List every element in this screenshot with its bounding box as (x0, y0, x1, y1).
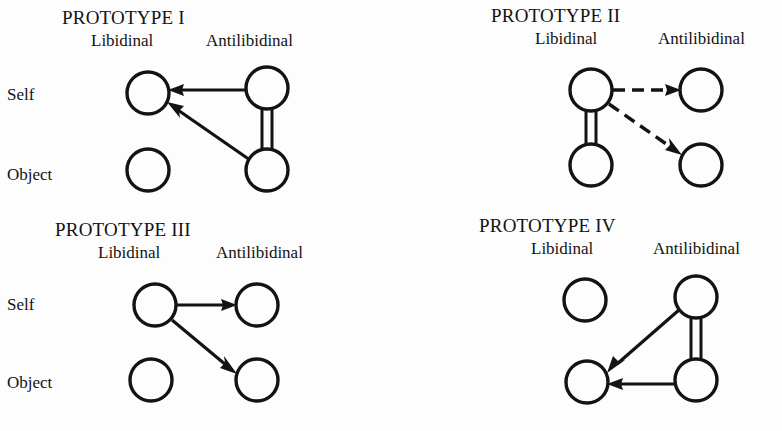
node-libidinal-object (570, 144, 612, 186)
prototype-4-wiring (391, 212, 782, 427)
node-antilibidinal-object (675, 359, 717, 401)
node-libidinal-self (134, 284, 176, 326)
arrow-antilib-object-to-lib-object-diagonal (167, 102, 250, 160)
node-antilibidinal-self (675, 276, 717, 318)
node-libidinal-self (564, 279, 606, 321)
node-antilibidinal-self (680, 69, 722, 111)
node-libidinal-self (127, 72, 169, 114)
panel-prototype-3: PROTOTYPE III Libidinal Antilibidinal Se… (0, 212, 391, 427)
node-antilibidinal-self (246, 67, 288, 109)
panel-prototype-4: PROTOTYPE IV Libidinal Antilibidinal (391, 212, 782, 427)
node-libidinal-object (566, 361, 608, 403)
node-libidinal-object (127, 149, 169, 191)
prototype-1-wiring (0, 0, 391, 215)
panel-prototype-1: PROTOTYPE I Libidinal Antilibidinal Self… (0, 0, 391, 215)
panel-prototype-2: PROTOTYPE II Libidinal Antilibidinal (391, 0, 782, 215)
arrow-antilib-object-to-lib-object (607, 378, 675, 390)
node-antilibidinal-object (680, 144, 722, 186)
node-antilibidinal-object (236, 359, 278, 401)
double-bar-antilib-self-object (691, 317, 701, 360)
arrow-antilib-self-to-lib-object (607, 310, 679, 373)
double-bar-antilib-self-object (262, 108, 272, 150)
arrow-lib-self-to-antilib-object (172, 320, 237, 374)
prototype-3-wiring (0, 212, 391, 427)
node-libidinal-object (130, 359, 172, 401)
node-antilibidinal-self (236, 284, 278, 326)
double-bar-lib-self-object (586, 110, 596, 145)
prototypes-figure: PROTOTYPE I Libidinal Antilibidinal Self… (0, 0, 782, 431)
dashed-arrow-lib-self-to-antilib-self (613, 84, 681, 96)
node-libidinal-self (570, 69, 612, 111)
dashed-arrow-lib-self-to-antilib-object (609, 104, 682, 155)
prototype-2-wiring (391, 0, 782, 215)
node-antilibidinal-object (246, 149, 288, 191)
arrow-lib-self-to-antilib-self (176, 299, 237, 311)
arrow-antilib-self-to-lib-self (168, 84, 246, 96)
